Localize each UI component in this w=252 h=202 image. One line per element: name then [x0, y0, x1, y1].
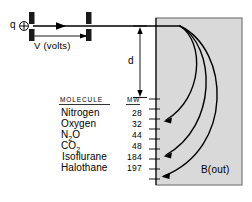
plate-upper-right [86, 12, 92, 24]
molecular-weight-oxygen: 32 [112, 120, 142, 129]
molecule-name-isoflurane: Isoflurane [62, 152, 107, 162]
plate-upper-left [29, 12, 35, 24]
drift-arrowhead-top [137, 27, 142, 34]
table-header-molecule: MOLECULE [60, 97, 103, 104]
molecule-name-halothane: Halothane [61, 163, 108, 173]
beam-direction-arrowhead [56, 22, 66, 30]
molecular-weight-isoflurane: 184 [112, 153, 142, 162]
magnetic-field-region [156, 18, 242, 185]
drift-distance-label: d [128, 56, 134, 66]
mass-spectrometer-diagram: q V (volts) d B(out) MOLECULE MW Nitroge… [0, 0, 252, 202]
accelerating-voltage-label: V (volts) [34, 41, 71, 51]
molecular-weight-carbon-dioxide: 48 [112, 142, 142, 151]
ion-source-label: q [10, 20, 16, 30]
molecular-weight-nitrogen: 28 [112, 109, 142, 118]
molecular-weight-nitrous-oxide: 44 [112, 131, 142, 140]
molecule-name-carbon-dioxide-main: CO [61, 140, 76, 151]
magnetic-field-label: B(out) [201, 165, 229, 175]
molecule-name-oxygen: Oxygen [61, 119, 96, 129]
table-header-mw: MW [127, 97, 140, 104]
molecule-name-nitrogen: Nitrogen [61, 108, 100, 118]
molecular-weight-halothane: 197 [112, 164, 142, 173]
molecule-name-nitrous-oxide-tail: O [72, 129, 80, 140]
plate-lower-right [86, 29, 92, 41]
